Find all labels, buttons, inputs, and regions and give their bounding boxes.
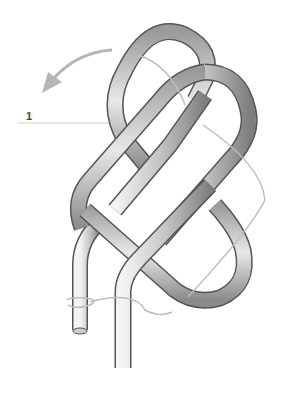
step-label: 1: [26, 110, 32, 122]
knot-illustration: [0, 0, 285, 399]
rotation-arrow-icon: [42, 50, 112, 93]
rope-end-icon: [73, 328, 87, 334]
rope-tail-strand: [73, 222, 100, 334]
rope-lower-loop: [85, 205, 244, 300]
